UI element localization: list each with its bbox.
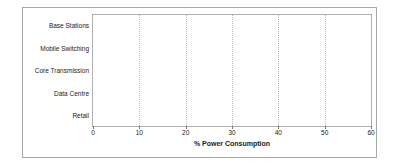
gridline-30	[232, 15, 233, 126]
x-tick-label: 40	[275, 130, 282, 137]
gridline-50	[325, 15, 326, 126]
category-label: Base Stations	[49, 23, 89, 30]
category-label: Retail	[72, 113, 89, 120]
plot-area: Base Stations Mobile Switching Core Tran…	[92, 14, 372, 127]
category-label: Mobile Switching	[40, 46, 89, 53]
x-tick-label: 20	[182, 130, 189, 137]
x-tick-label: 50	[321, 130, 328, 137]
x-tick-label: 60	[367, 130, 374, 137]
x-axis-title: % Power Consumption	[93, 140, 371, 147]
gridline-10	[139, 15, 140, 126]
category-label: Data Centre	[54, 91, 89, 98]
x-tick-label: 10	[136, 130, 143, 137]
chart-figure: Base Stations Mobile Switching Core Tran…	[22, 7, 377, 158]
x-tick-label: 0	[91, 130, 95, 137]
category-label: Core Transmission	[35, 68, 89, 75]
gridline-20	[186, 15, 187, 126]
gridline-40	[278, 15, 279, 126]
x-tick-label: 30	[228, 130, 235, 137]
